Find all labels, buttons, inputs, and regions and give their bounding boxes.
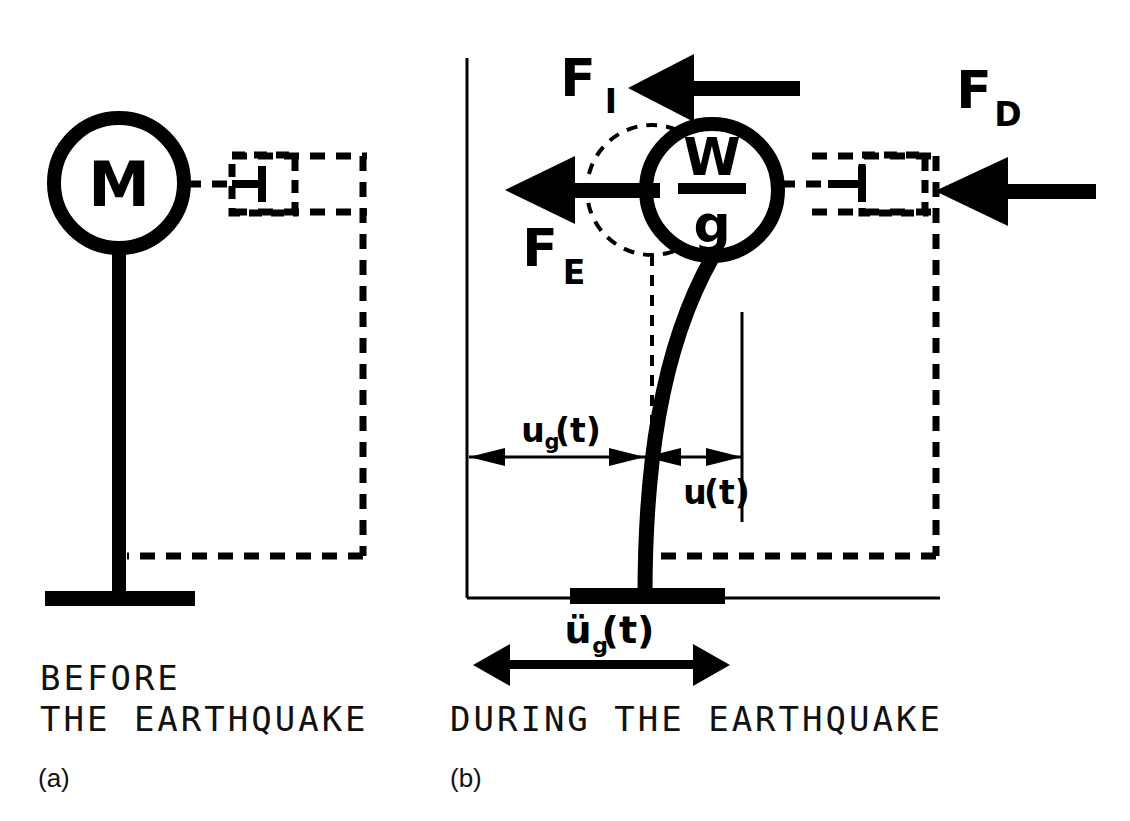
panel-b-group: W g F I F E F D — [450, 48, 1096, 793]
ground-accel-symbol: ü — [564, 608, 591, 652]
inertia-arrow-shaft — [688, 81, 800, 96]
figure-root: M BEFORE THE EARTHQUAKE (a) — [0, 0, 1130, 821]
ground-disp-argument: (t) — [555, 411, 601, 450]
panel-a-dashpot — [232, 155, 295, 213]
ground-disp-symbol: u — [521, 411, 545, 450]
rel-disp-arrow-right — [706, 448, 742, 466]
panel-b-mass-fraction-bar — [678, 183, 746, 194]
elastic-force-arrow — [505, 156, 660, 224]
ground-accel-shaft — [493, 660, 709, 669]
panel-a-mass-label: M — [88, 148, 150, 221]
damping-force-arrow — [935, 157, 1096, 226]
panel-a-caption-line1: BEFORE — [40, 658, 181, 698]
panel-b-id: (b) — [450, 763, 482, 793]
ground-disp-arrow-left — [469, 448, 505, 466]
panel-a-id: (a) — [38, 763, 70, 793]
inertia-force-subscript: I — [605, 82, 617, 121]
damping-arrow-head — [935, 157, 1008, 226]
panel-b-dashpot — [828, 155, 925, 213]
ground-accel-argument: (t) — [602, 608, 655, 652]
elastic-force-symbol: F — [522, 218, 558, 278]
panel-a-column — [112, 230, 126, 596]
panel-a-base-plate — [45, 591, 195, 606]
panel-a-group: M BEFORE THE EARTHQUAKE (a) — [38, 118, 369, 793]
panel-b-deformed-column — [645, 258, 712, 596]
ground-disp-arrow-right — [609, 448, 645, 466]
inertia-force-arrow — [628, 54, 800, 122]
damping-arrow-shaft — [1003, 184, 1096, 199]
panel-b-dashpot-body — [862, 155, 925, 213]
inertia-arrow-head — [628, 54, 694, 122]
panel-b-base-plate — [570, 588, 725, 604]
panel-b-mass-denominator: g — [693, 194, 730, 254]
panel-a-caption-line2: THE EARTHQUAKE — [40, 699, 369, 739]
panel-b-mass-numerator: W — [683, 127, 740, 187]
damping-force-subscript: D — [994, 95, 1021, 134]
elastic-arrow-head — [505, 156, 575, 224]
ground-accel-arrow-left — [473, 644, 510, 686]
elastic-arrow-shaft — [570, 183, 660, 198]
ground-accel-arrow-right — [693, 644, 730, 686]
panel-b-caption-line1: DURING THE EARTHQUAKE — [450, 699, 943, 739]
earthquake-structure-diagram: M BEFORE THE EARTHQUAKE (a) — [0, 0, 1130, 821]
damping-force-symbol: F — [956, 60, 992, 120]
elastic-force-subscript: E — [563, 253, 586, 292]
inertia-force-symbol: F — [560, 48, 596, 108]
rel-disp-argument: (t) — [704, 473, 750, 512]
